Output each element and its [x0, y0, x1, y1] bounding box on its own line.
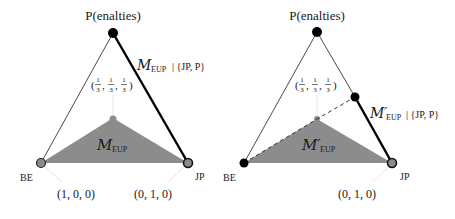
svg-text:(: ( [91, 79, 95, 92]
svg-text:): ) [129, 79, 133, 92]
vertex-jp-label: JP [400, 171, 410, 182]
coord-be-label: (1, 0, 0) [57, 187, 95, 201]
svg-text:3: 3 [313, 86, 317, 94]
svg-text:3: 3 [300, 86, 304, 94]
svg-text:1: 1 [122, 76, 126, 84]
svg-text:,: , [306, 79, 309, 91]
svg-text:1: 1 [109, 76, 113, 84]
svg-text:,: , [102, 79, 105, 91]
svg-text:1: 1 [300, 76, 304, 84]
svg-text:3: 3 [96, 86, 100, 94]
centroid-label: ( 1 3 , 1 3 , 1 3 ) [91, 76, 133, 94]
edge-label: M′ EUP | {JP, P} [369, 105, 439, 122]
vertex-be-label: BE [223, 172, 236, 183]
right-simplex: P(enalties) ( 1 3 , 1 3 , 1 3 ) M′ EUP M… [223, 8, 439, 201]
vertex-jp-label: JP [195, 171, 205, 182]
svg-text:3: 3 [122, 86, 126, 94]
top-vertex-label: P(enalties) [289, 8, 345, 23]
top-vertex-label: P(enalties) [85, 8, 141, 23]
svg-text:3: 3 [109, 86, 113, 94]
left-simplex: P(enalties) ( 1 3 , 1 3 , 1 3 ) M EUP M … [20, 8, 205, 201]
svg-text:| {JP, P}: | {JP, P} [172, 61, 205, 72]
edge-midpoint-dot [351, 93, 360, 102]
svg-text:1: 1 [326, 76, 330, 84]
svg-text:M′: M′ [301, 136, 321, 154]
svg-text:(: ( [295, 79, 299, 92]
svg-text:,: , [115, 79, 118, 91]
svg-text:1: 1 [96, 76, 100, 84]
vertex-be-label: BE [20, 172, 33, 183]
coord-jp-label: (0, 1, 0) [338, 187, 376, 201]
vertex-jp [388, 159, 397, 168]
vertex-p [312, 27, 322, 37]
svg-text:EUP: EUP [320, 145, 336, 154]
svg-text:EUP: EUP [386, 113, 402, 122]
svg-text:1: 1 [313, 76, 317, 84]
coord-jp-label: (0, 1, 0) [134, 187, 172, 201]
edge-label: M EUP | {JP, P} [136, 57, 205, 74]
svg-text:EUP: EUP [112, 145, 128, 154]
svg-text:M: M [136, 57, 152, 73]
vertex-be [37, 159, 46, 168]
svg-text:3: 3 [326, 86, 330, 94]
vertex-jp [184, 159, 193, 168]
vertex-be [240, 159, 249, 168]
jp-coord-guide-line [373, 167, 389, 182]
svg-text:): ) [333, 79, 337, 92]
svg-text:EUP: EUP [151, 65, 167, 74]
jp-coord-guide-line [168, 167, 184, 182]
svg-text:,: , [319, 79, 322, 91]
vertex-p [108, 28, 118, 38]
be-coord-guide-line [45, 167, 62, 182]
svg-text:M: M [96, 136, 113, 154]
centroid-dot [110, 116, 117, 123]
centroid-label: ( 1 3 , 1 3 , 1 3 ) [295, 76, 337, 94]
svg-text:| {JP, P}: | {JP, P} [406, 109, 439, 120]
